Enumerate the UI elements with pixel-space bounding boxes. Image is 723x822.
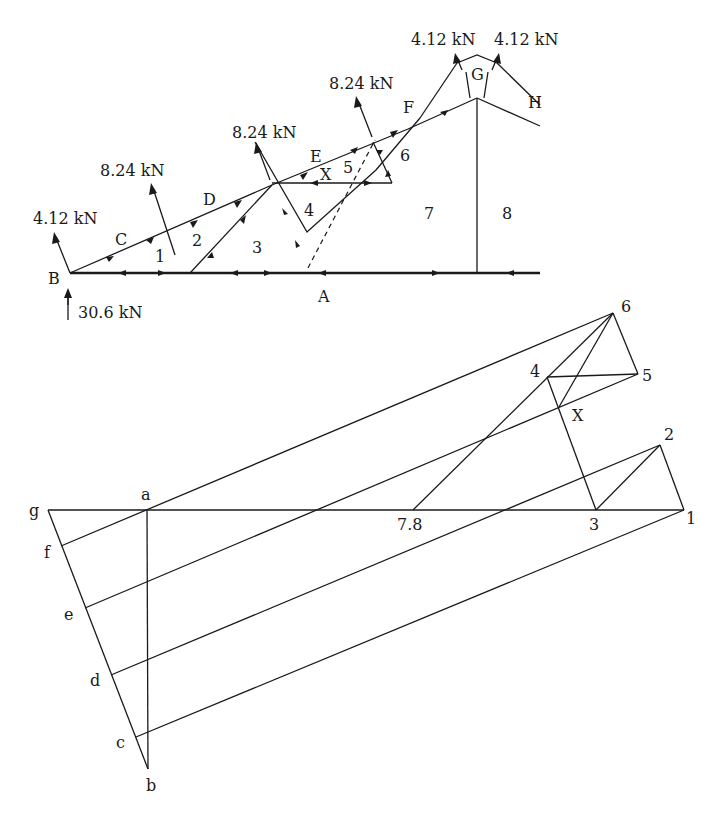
space-label-8: 8 [502,204,512,223]
g-pentagon-left [466,72,470,98]
polygon-label-6: 6 [621,297,631,316]
line-6-5 [613,313,638,374]
space-label-c: C [115,230,127,249]
polygon-label-a: a [141,485,151,504]
arrowhead-icon [432,270,440,276]
polygon-label-5: 5 [642,366,652,385]
arrowhead-icon [149,183,157,195]
truss-diagram: 4.12 kN 8.24 kN 8.24 kN 8.24 kN 4.12 kN … [0,0,723,822]
polygon-label-e: e [64,605,73,624]
reaction-label: 30.6 kN [78,303,142,322]
space-label-g: G [471,65,484,84]
arrowhead-icon [364,180,372,186]
space-label-5: 5 [343,158,353,177]
space-label-4: 4 [304,201,314,220]
load-arrow-c-d [153,188,175,255]
arrowhead-icon [254,142,262,154]
space-label-a: A [317,287,330,306]
arrowhead-icon [230,270,238,276]
arrowhead-icon [264,270,272,276]
space-label-h: H [528,93,542,112]
line-4-3 [547,377,596,510]
space-label-6: 6 [400,146,410,165]
space-label-e: E [310,147,322,166]
polygon-label-x: X [572,406,584,425]
line-e-5 [85,374,638,608]
space-label-1: 1 [155,247,165,266]
arrowhead-icon [118,270,126,276]
load-label-c-d: 8.24 kN [100,161,164,180]
line-f-6 [61,313,613,546]
polygon-label-g: g [29,501,39,520]
load-label-e-f: 8.24 kN [329,74,393,93]
load-label-apex-right: 4.12 kN [494,30,558,49]
g-pentagon-top [457,55,497,63]
load-line-g-b [48,510,148,769]
arrowhead-icon [440,110,448,116]
polygon-label-b: b [146,776,156,795]
arrowhead-icon [64,288,72,298]
g-pentagon-right [484,72,488,98]
arrowhead-icon [376,150,383,155]
line-4-5 [547,374,638,377]
line-d-2 [111,445,660,675]
load-arrow-left-end [56,238,70,273]
polygon-label-3: 3 [589,515,599,534]
space-diagram: 4.12 kN 8.24 kN 8.24 kN 8.24 kN 4.12 kN … [33,30,558,322]
space-label-f: F [403,98,414,117]
arrowhead-icon [506,270,514,276]
space-label-2: 2 [192,231,202,250]
arrowhead-icon [282,208,288,215]
polygon-label-d: d [90,671,100,690]
line-x-6 [559,313,613,407]
line-2-1 [660,445,684,510]
arrowhead-icon [354,96,362,108]
space-label-7: 7 [424,204,434,223]
arrowhead-icon [190,220,198,228]
space-label-d: D [203,190,216,209]
force-polygon: g a f e d c b 6 5 4 X 2 3 1 7.8 [29,297,696,795]
space-label-3: 3 [252,238,262,257]
arrowhead-icon [318,270,326,276]
arrowhead-icon [310,180,318,186]
polygon-label-4: 4 [530,362,540,381]
load-label-left-end: 4.12 kN [33,209,97,228]
polygon-label-c: c [116,733,125,752]
reaction-line-a-b [147,510,148,769]
load-label-d-e: 8.24 kN [232,123,296,142]
polygon-label-1: 1 [686,509,696,528]
load-label-apex-left: 4.12 kN [411,30,475,49]
polygon-label-7-8: 7.8 [397,515,422,534]
line-3-2 [596,445,660,510]
space-label-x: X [320,165,332,184]
polygon-label-2: 2 [664,425,674,444]
line-c-1 [136,510,684,737]
polygon-label-f: f [44,543,51,562]
arrowhead-icon [106,256,114,262]
web-member-5 [373,142,392,183]
arrowhead-icon [295,240,300,248]
arrowhead-icon [52,232,60,244]
arrowhead-icon [158,270,166,276]
space-label-b: B [48,269,60,288]
